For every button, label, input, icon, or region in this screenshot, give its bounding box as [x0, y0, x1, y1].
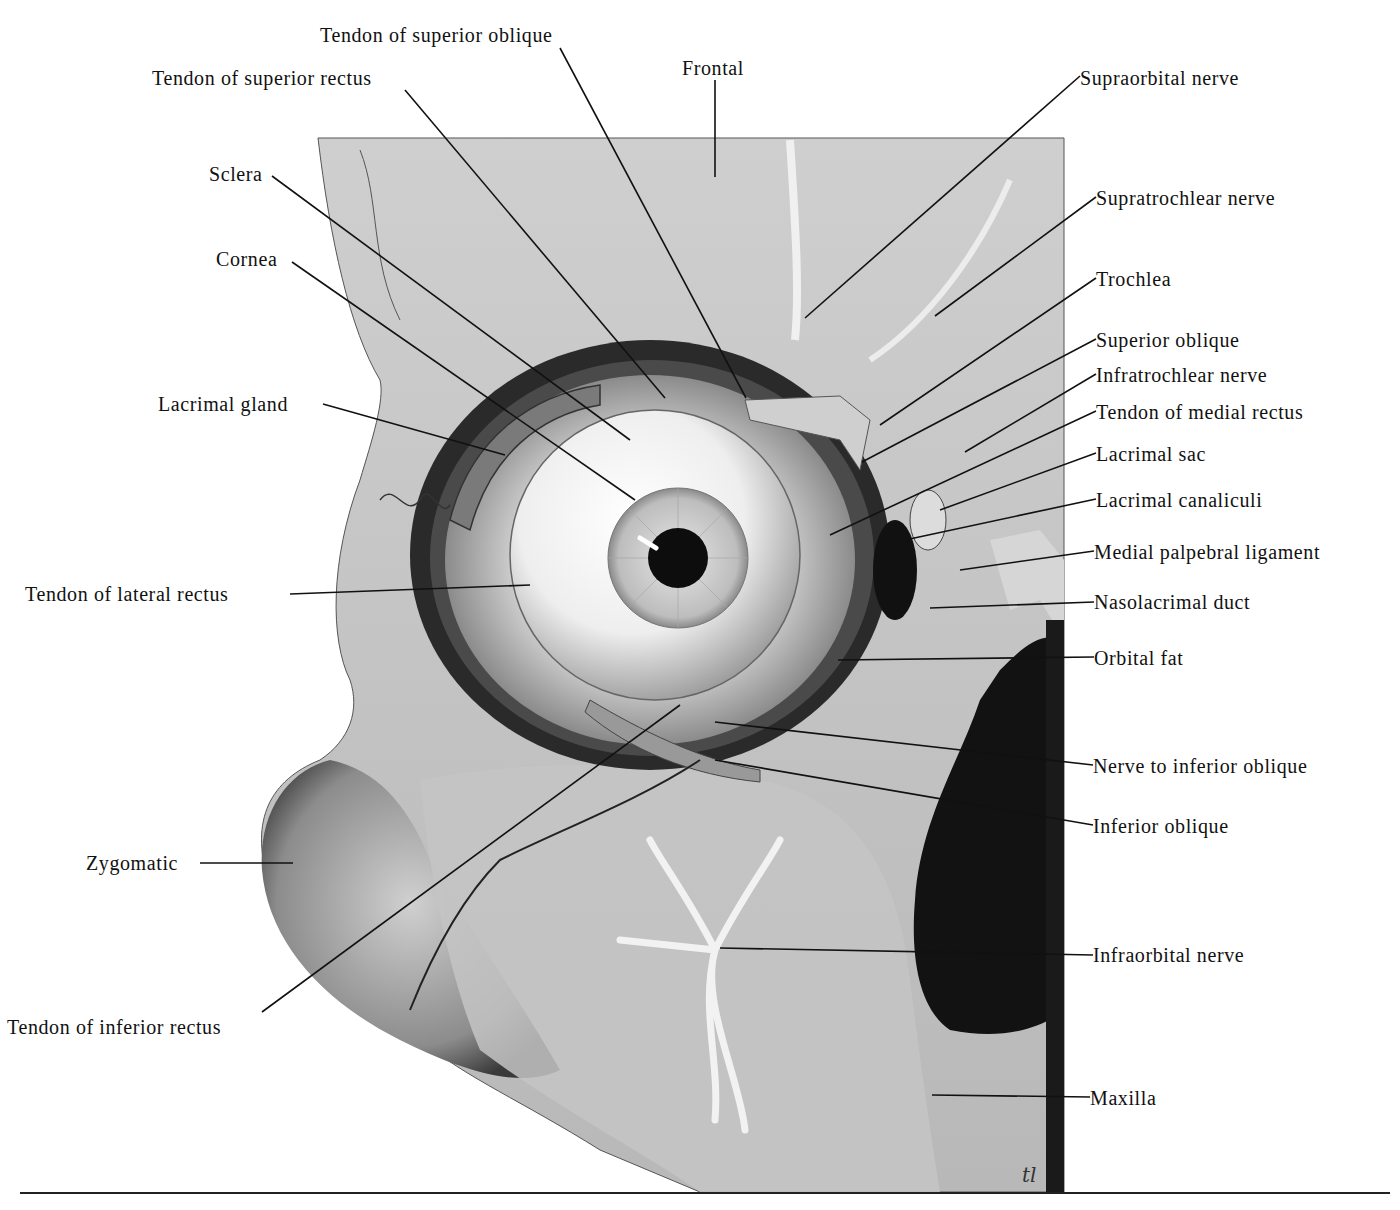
label-tendon-lateral-rectus: Tendon of lateral rectus	[25, 583, 228, 605]
label-tendon-superior-oblique: Tendon of superior oblique	[320, 24, 553, 46]
label-medial-palpebral-ligament: Medial palpebral ligament	[1094, 541, 1320, 563]
artist-signature: tl	[1022, 1163, 1036, 1187]
label-lacrimal-sac: Lacrimal sac	[1096, 443, 1206, 465]
label-infratrochlear-nerve: Infratrochlear nerve	[1096, 364, 1267, 386]
label-infraorbital-nerve: Infraorbital nerve	[1093, 944, 1244, 966]
label-sclera: Sclera	[209, 163, 263, 185]
label-nasolacrimal-duct: Nasolacrimal duct	[1094, 591, 1250, 613]
label-tendon-superior-rectus: Tendon of superior rectus	[152, 67, 372, 89]
label-orbital-fat: Orbital fat	[1094, 647, 1183, 669]
bottom-rule-divider	[20, 1192, 1390, 1194]
label-trochlea: Trochlea	[1096, 268, 1171, 290]
anatomy-figure: Tendon of superior oblique Tendon of sup…	[0, 0, 1400, 1210]
label-zygomatic: Zygomatic	[86, 852, 178, 874]
label-lacrimal-gland: Lacrimal gland	[158, 393, 288, 415]
label-tendon-inferior-rectus: Tendon of inferior rectus	[7, 1016, 221, 1038]
label-tendon-medial-rectus: Tendon of medial rectus	[1096, 401, 1303, 423]
label-frontal: Frontal	[682, 57, 744, 79]
label-superior-oblique: Superior oblique	[1096, 329, 1239, 351]
label-maxilla: Maxilla	[1090, 1087, 1156, 1109]
label-cornea: Cornea	[216, 248, 277, 270]
label-supratrochlear-nerve: Supratrochlear nerve	[1096, 187, 1275, 209]
label-nerve-inferior-oblique: Nerve to inferior oblique	[1093, 755, 1307, 777]
label-lacrimal-canaliculi: Lacrimal canaliculi	[1096, 489, 1262, 511]
label-inferior-oblique: Inferior oblique	[1093, 815, 1229, 837]
label-supraorbital-nerve: Supraorbital nerve	[1080, 67, 1239, 89]
